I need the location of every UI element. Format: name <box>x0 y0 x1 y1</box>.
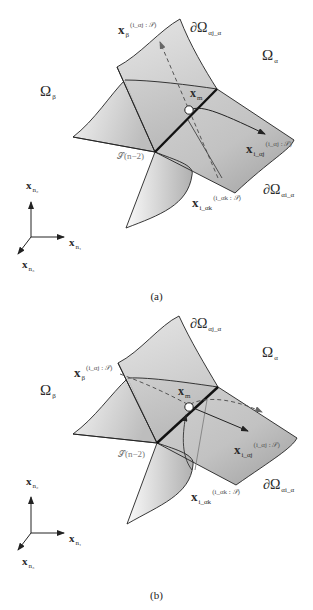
label-sub: m <box>197 94 202 102</box>
axis-label-n1-a: xn₁ <box>69 237 81 248</box>
label-omega-beta-b: Ωβ <box>40 383 56 398</box>
label-sub: β <box>52 392 56 400</box>
axis-label-n2-b: xn₂ <box>26 476 38 487</box>
point-xm-a <box>185 106 193 114</box>
label-boundary-top-a: ∂Ωαj_α <box>190 21 221 35</box>
label-main: 𝒮 <box>117 151 124 161</box>
label-sub: α <box>274 57 278 65</box>
label-x-bottom-b: xi_αk(i_αk : 𝒮) <box>191 490 240 503</box>
caption-b: (b) <box>0 589 313 601</box>
label-sup: (i_αj : 𝒮) <box>266 140 292 148</box>
label-sup: (i_αj : 𝒮) <box>254 441 280 449</box>
axis-label-n2-a: xn₂ <box>26 180 38 191</box>
label-main: ∂Ω <box>190 20 207 35</box>
label-main: x <box>246 141 253 156</box>
label-sub: n₃ <box>29 562 35 570</box>
label-main: x <box>26 179 32 191</box>
label-main: x <box>22 555 28 567</box>
axes-b <box>18 497 64 550</box>
label-main: x <box>191 489 198 504</box>
label-sub: m <box>185 392 190 400</box>
label-boundary-top-b: ∂Ωαj_α <box>190 317 221 331</box>
label-sub: i_αj <box>242 451 253 459</box>
label-main: Ω <box>40 83 51 99</box>
label-main: x <box>234 442 241 457</box>
label-main: Ω <box>262 344 273 360</box>
label-x-bottom-a: xi_αk(i_αk : 𝒮) <box>192 196 241 209</box>
label-main: x <box>190 86 196 100</box>
label-main: x <box>192 195 199 210</box>
axis-label-n3-b: xn₃ <box>22 556 34 567</box>
label-main: x <box>74 365 81 380</box>
label-sub: i_αj <box>254 150 265 158</box>
label-omega-beta-a: Ωβ <box>40 84 56 99</box>
label-main: ∂Ω <box>263 477 280 492</box>
label-sup: (n−2) <box>125 449 145 459</box>
label-sub: β <box>52 93 56 101</box>
label-sup: (i_αj : 𝒮) <box>130 21 156 29</box>
label-sub: i_αk <box>200 204 213 212</box>
label-sub: β <box>126 31 130 39</box>
label-main: x <box>26 475 32 487</box>
label-xm-a: xm <box>190 87 202 99</box>
label-edge-b: 𝒮(n−2) <box>118 450 145 459</box>
label-sup: (n−2) <box>124 151 144 161</box>
label-boundary-right-a: ∂Ωαi_α <box>263 183 294 197</box>
label-sub: αj_α <box>208 325 221 333</box>
label-omega-alpha-b: Ωα <box>262 345 278 360</box>
label-sub: n₁ <box>76 243 82 251</box>
label-sub: n₂ <box>33 482 39 490</box>
axis-label-n1-b: xn₁ <box>69 533 81 544</box>
surface-lower-a <box>126 152 192 228</box>
label-sub: β <box>82 374 86 382</box>
label-sup: (i_αj : 𝒮) <box>86 364 112 372</box>
label-edge-a: 𝒮(n−2) <box>117 152 144 161</box>
label-x-right-a: xi_αj(i_αj : 𝒮) <box>246 142 292 155</box>
label-sub: n₂ <box>33 186 39 194</box>
label-main: ∂Ω <box>190 316 207 331</box>
label-x-beta-b: xβ(i_αj : 𝒮) <box>74 366 112 379</box>
label-sub: n₃ <box>29 265 35 273</box>
label-sub: n₁ <box>76 539 82 547</box>
label-sup: (i_αk : 𝒮) <box>212 488 240 496</box>
label-sub: α <box>274 354 278 362</box>
label-main: Ω <box>262 47 273 63</box>
label-main: 𝒮 <box>118 449 125 459</box>
label-sub: αj_α <box>208 29 221 37</box>
label-main: ∂Ω <box>263 182 280 197</box>
label-sub: αi_α <box>281 191 294 199</box>
label-x-beta-a: xβ(i_αj : 𝒮) <box>118 23 156 36</box>
label-xm-b: xm <box>178 385 190 397</box>
point-xm-b <box>185 403 193 411</box>
label-main: Ω <box>40 382 51 398</box>
label-main: x <box>178 384 184 398</box>
axes-a <box>18 202 64 254</box>
caption-a: (a) <box>0 290 313 302</box>
label-boundary-right-b: ∂Ωαi_α <box>263 478 294 492</box>
label-sub: i_αk <box>199 498 212 506</box>
label-sup: (i_αk : 𝒮) <box>213 194 241 202</box>
axis-label-n3-a: xn₃ <box>22 259 34 270</box>
label-x-right-b: xi_αj(i_αj : 𝒮) <box>234 443 280 456</box>
label-omega-alpha-a: Ωα <box>262 48 278 63</box>
label-main: x <box>118 22 125 37</box>
label-sub: αi_α <box>281 486 294 494</box>
label-main: x <box>69 532 75 544</box>
panel-a <box>73 19 294 228</box>
label-main: x <box>22 258 28 270</box>
label-main: x <box>69 236 75 248</box>
